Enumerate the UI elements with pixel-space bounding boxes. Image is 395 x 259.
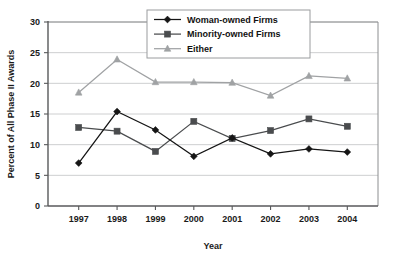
marker-square (165, 31, 171, 37)
y-tick-label: 10 (30, 140, 40, 150)
marker-diamond (267, 150, 274, 157)
x-tick-label: 2000 (184, 214, 204, 224)
marker-square (191, 118, 197, 124)
x-axis-title: Year (203, 241, 223, 251)
legend-label: Woman-owned Firms (187, 15, 278, 25)
series-either (75, 56, 350, 98)
marker-square (152, 148, 158, 154)
marker-diamond (306, 146, 313, 153)
y-axis-title: Percent of All Phase II Awards (6, 50, 16, 179)
x-tick-label: 1997 (69, 214, 89, 224)
legend-label: Either (187, 44, 213, 54)
marker-square (76, 124, 82, 130)
x-tick-label: 2003 (299, 214, 319, 224)
marker-square (114, 128, 120, 134)
y-tick-label: 30 (30, 17, 40, 27)
legend-label: Minority-owned Firms (187, 29, 281, 39)
x-tick-label: 2001 (222, 214, 242, 224)
y-tick-label: 0 (35, 201, 40, 211)
marker-triangle (114, 56, 121, 62)
y-tick-label: 20 (30, 79, 40, 89)
x-tick-label: 2004 (337, 214, 357, 224)
x-tick-label: 1999 (145, 214, 165, 224)
x-tick-label: 1998 (107, 214, 127, 224)
marker-square (306, 116, 312, 122)
line-chart: 0510152025301997199819992000200120022003… (0, 0, 395, 259)
marker-square (344, 123, 350, 129)
y-tick-label: 25 (30, 48, 40, 58)
marker-square (268, 128, 274, 134)
marker-diamond (344, 149, 351, 156)
y-tick-label: 15 (30, 109, 40, 119)
x-tick-label: 2002 (261, 214, 281, 224)
chart-container: 0510152025301997199819992000200120022003… (0, 0, 395, 259)
marker-triangle (306, 72, 313, 78)
y-tick-label: 5 (35, 171, 40, 181)
